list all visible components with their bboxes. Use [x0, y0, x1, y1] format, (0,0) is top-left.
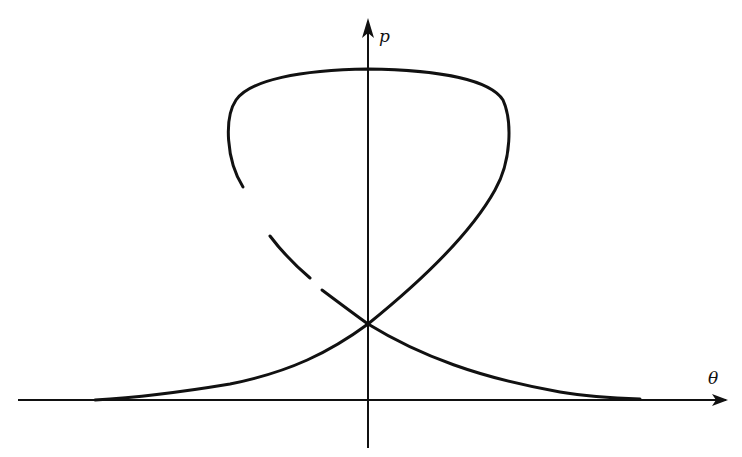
p-axis-label: p [379, 28, 390, 45]
theta-axis [18, 394, 728, 406]
left-rising-branch [95, 324, 368, 400]
p-axis [362, 18, 374, 448]
theta-axis-label: θ [708, 370, 718, 387]
left-branch-segment-2 [322, 290, 368, 324]
phase-portrait-figure [0, 0, 742, 457]
right-falling-branch [368, 324, 640, 399]
left-branch-segment-1 [270, 236, 310, 278]
